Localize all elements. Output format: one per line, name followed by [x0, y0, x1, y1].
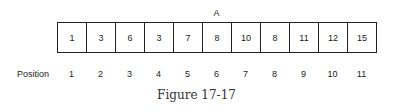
array-cell: 3	[87, 23, 116, 52]
position-number: 5	[173, 69, 202, 79]
position-number: 8	[260, 69, 289, 79]
position-number: 10	[318, 69, 347, 79]
position-row: 1 2 3 4 5 6 7 8 9 10 11	[57, 69, 376, 79]
array-boxes: 1 3 6 3 7 8 10 8 11 12 15	[57, 22, 377, 53]
array-cell: 10	[232, 23, 261, 52]
position-label: Position	[17, 69, 49, 79]
array-cell: 8	[203, 23, 232, 52]
position-number: 3	[115, 69, 144, 79]
position-number: 7	[231, 69, 260, 79]
array-cell: 7	[174, 23, 203, 52]
position-number: 9	[289, 69, 318, 79]
array-cell: 12	[319, 23, 348, 52]
position-number: 4	[144, 69, 173, 79]
array-cell: 11	[290, 23, 319, 52]
position-number: 11	[347, 69, 376, 79]
position-number: 2	[86, 69, 115, 79]
array-cell: 8	[261, 23, 290, 52]
position-number: 1	[57, 69, 86, 79]
figure-caption: Figure 17-17	[0, 88, 393, 102]
array-cell: 6	[116, 23, 145, 52]
marker-a: A	[202, 8, 231, 18]
array-cell: 15	[348, 23, 376, 52]
array-cell: 1	[58, 23, 87, 52]
array-cell: 3	[145, 23, 174, 52]
position-number: 6	[202, 69, 231, 79]
